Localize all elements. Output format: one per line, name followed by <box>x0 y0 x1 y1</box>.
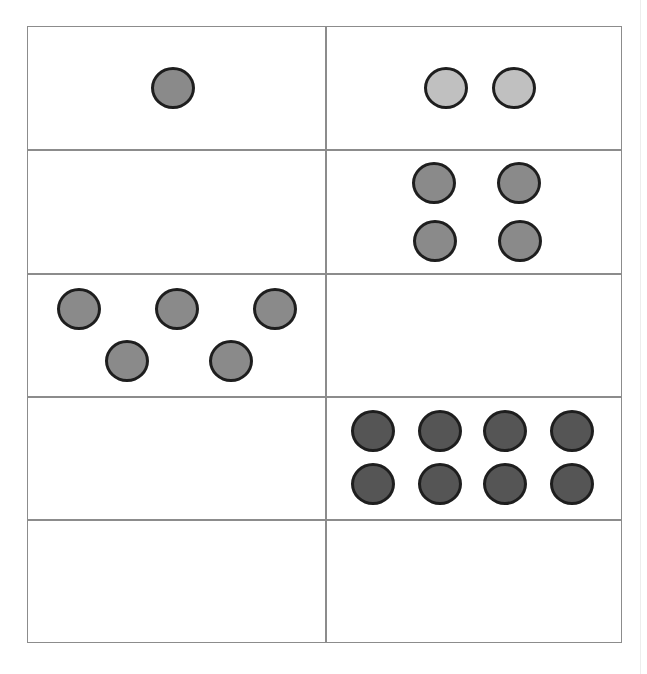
dot <box>57 288 101 330</box>
dot <box>418 410 462 452</box>
dot <box>497 162 541 204</box>
grid-divider-row-4 <box>28 519 621 521</box>
grid-divider-row-3 <box>28 396 621 398</box>
dot <box>498 220 542 262</box>
dot <box>483 410 527 452</box>
dot <box>155 288 199 330</box>
dot <box>351 463 395 505</box>
dot <box>424 67 468 109</box>
dot <box>418 463 462 505</box>
dot <box>253 288 297 330</box>
dot <box>412 162 456 204</box>
dot-count-grid <box>27 26 622 643</box>
dot <box>209 340 253 382</box>
cropped-instruction-text: ... page ... ... p ... <box>30 0 195 12</box>
dot <box>413 220 457 262</box>
grid-divider-vertical <box>325 27 327 642</box>
dot <box>483 463 527 505</box>
dot <box>550 463 594 505</box>
dot <box>550 410 594 452</box>
grid-divider-row-2 <box>28 273 621 275</box>
dot <box>492 67 536 109</box>
grid-divider-row-1 <box>28 149 621 151</box>
dot <box>351 410 395 452</box>
dot <box>105 340 149 382</box>
dot <box>151 67 195 109</box>
page-edge-line <box>640 0 641 674</box>
